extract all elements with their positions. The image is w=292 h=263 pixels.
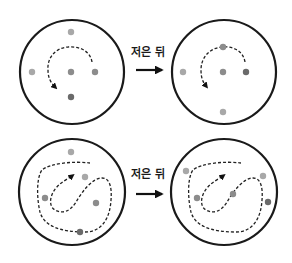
particle-dot <box>29 69 35 75</box>
row2-after-panel <box>171 139 277 245</box>
particle-dots <box>180 44 249 115</box>
transition-label: 저은 뒤 <box>131 167 165 181</box>
particle-dot <box>220 69 226 75</box>
row2-before-panel <box>19 139 125 245</box>
particle-dot <box>194 195 200 201</box>
particle-dot <box>93 200 99 206</box>
particle-dot <box>82 174 88 180</box>
particle-dot <box>77 229 83 235</box>
particle-dot <box>220 109 226 115</box>
particle-dot <box>68 94 74 100</box>
particle-dot <box>220 44 226 50</box>
particle-dots <box>29 29 98 100</box>
transition-label: 저은 뒤 <box>131 45 165 59</box>
particle-dot <box>180 69 186 75</box>
particle-dot <box>230 191 236 197</box>
particle-dot <box>265 199 271 205</box>
particle-dots <box>42 149 99 235</box>
container-ring <box>171 139 277 245</box>
particle-dot <box>183 168 189 174</box>
particle-dot <box>243 69 249 75</box>
particle-dot <box>92 69 98 75</box>
particle-dots <box>183 168 271 205</box>
circular-stir-path <box>201 47 245 86</box>
row1-before-panel <box>20 20 124 124</box>
particle-dot <box>260 173 266 179</box>
circular-stir-path <box>48 47 92 87</box>
chaotic-stir-path <box>38 162 112 232</box>
row2-transition: 저은 뒤 <box>131 167 165 194</box>
particle-dot <box>42 195 48 201</box>
row1-after-panel <box>172 20 276 124</box>
stirring-diagram: 저은 뒤 저은 뒤 <box>0 0 292 263</box>
particle-dot <box>68 29 74 35</box>
particle-dot <box>68 69 74 75</box>
row1-transition: 저은 뒤 <box>131 45 165 70</box>
particle-dot <box>68 149 74 155</box>
